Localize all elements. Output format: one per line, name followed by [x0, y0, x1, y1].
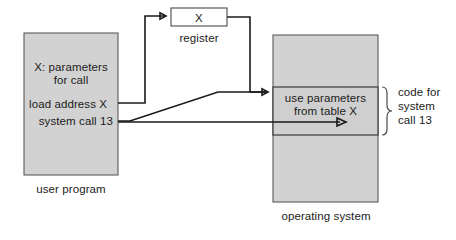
user-program-caption: user program [20, 182, 122, 196]
connector-system-call-to-os-band [118, 92, 268, 121]
operating-system-caption: operating system [272, 209, 380, 223]
connector-load-address-to-register [118, 16, 166, 103]
user-program-system-call: system call 13 [24, 114, 113, 128]
register-value: X [171, 11, 227, 25]
os-band-line1: use parameters [275, 91, 376, 105]
annotation-line3: call 13 [398, 113, 456, 127]
connector-register-to-os-band [227, 17, 268, 92]
diagram-canvas: X: parameters for call load address X sy… [0, 0, 456, 240]
user-program-load-address: load address X [29, 97, 121, 111]
register-caption: register [164, 31, 234, 45]
os-band-line2: from table X [275, 104, 376, 118]
annotation-line2: system [398, 99, 456, 113]
code-for-system-call-brace [382, 87, 392, 135]
user-program-parameters-line1: X: parameters [26, 60, 116, 74]
annotation-line1: code for [398, 85, 456, 99]
user-program-parameters-line2: for call [26, 73, 116, 87]
